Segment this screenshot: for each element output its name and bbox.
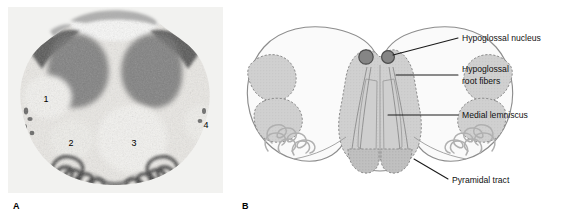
region-number-2: 2 [68,138,73,148]
label-hypoglossal-nucleus: Hypoglossal nucleus [462,33,541,43]
hypoglossal-nucleus-left [359,50,373,64]
label-hypoglossal-root-fibers-line1: Hypoglossal [462,64,509,74]
reticular-nucleus-right [458,98,506,142]
region-number-3: 3 [131,138,136,148]
reticular-nucleus-left [254,98,302,142]
label-pyramidal-tract: Pyramidal tract [452,175,510,185]
panel-a-photomicrograph: 1 2 3 4 [8,7,223,193]
panel-b-line-drawing: Hypoglossal nucleus Hypoglossal root fib… [236,7,568,197]
panel-letter-b: B [242,201,249,211]
hypoglossal-nucleus-right [382,51,395,64]
region-number-1: 1 [43,94,48,104]
label-medial-lemniscus: Medial lemniscus [462,110,528,120]
panel-letter-a: A [13,201,20,211]
figure-container: 1 2 3 4 [0,0,572,224]
region-number-4: 4 [203,120,208,130]
label-hypoglossal-root-fibers-line2: root fibers [462,76,500,86]
